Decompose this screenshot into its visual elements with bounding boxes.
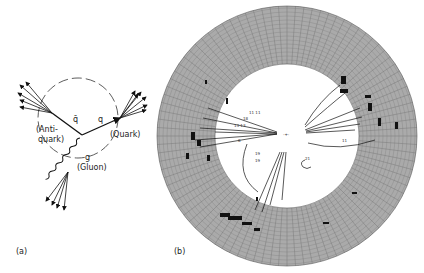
- track-label: 18: [243, 116, 249, 121]
- panel-a-label: (a): [16, 247, 27, 256]
- vertex-marker: -+-: [283, 132, 290, 137]
- quark-symbol: q: [98, 115, 103, 124]
- quark-label: (Quark): [110, 130, 140, 139]
- antiquark-symbol: q̄: [73, 115, 78, 124]
- antiquark-jet: [18, 82, 52, 113]
- track-label: 19: [255, 158, 261, 163]
- quark-jet: [120, 91, 147, 118]
- figure: q̄ q g (Anti- quark) (Quark) (Gluon) (a): [0, 0, 424, 273]
- panel-a-three-jet-diagram: q̄ q g (Anti- quark) (Quark) (Gluon) (a): [16, 78, 147, 256]
- antiquark-label-1: (Anti-: [36, 125, 58, 134]
- gluon-symbol: g: [85, 153, 90, 162]
- antiquark-label-2: quark): [38, 135, 64, 144]
- track-label: 11: [342, 138, 348, 143]
- track-label: 19: [255, 151, 261, 156]
- panel-b-label: (b): [174, 247, 185, 256]
- track-label: 11 11: [249, 110, 261, 115]
- track-label: 13 13: [234, 123, 246, 128]
- panel-b-event-display: 11 11 18 13 13 8 19 19 21 11 -+- (b): [157, 6, 417, 266]
- gluon-label: (Gluon): [77, 163, 107, 172]
- track-label: 21: [305, 156, 311, 161]
